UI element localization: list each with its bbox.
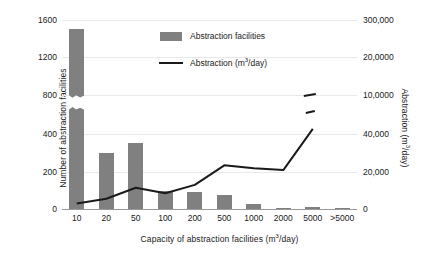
chart-figure: Number of abstraction facilities Abstrac… bbox=[0, 0, 439, 255]
y-axis-right-tick: 20,000 bbox=[363, 168, 389, 177]
y-axis-left-tick: 200 bbox=[25, 168, 57, 177]
y-axis-right-title-sup: 3 bbox=[405, 144, 411, 147]
legend-label-bars: Abstraction facilities bbox=[190, 31, 265, 41]
legend-line-swatch bbox=[159, 62, 183, 64]
line-path bbox=[304, 94, 316, 96]
x-axis-title-suffix: /day) bbox=[279, 234, 298, 244]
y-axis-left-tick: 400 bbox=[25, 130, 57, 139]
y-axis-left-tick: 800 bbox=[25, 91, 57, 100]
y-axis-right-tick: 40,000 bbox=[363, 130, 389, 139]
line-path bbox=[306, 111, 315, 113]
x-axis-title-text: Capacity of abstraction facilities (m bbox=[141, 234, 276, 244]
y-axis-right-tick: 20,0000 bbox=[363, 53, 394, 62]
y-axis-right-tick: 0 bbox=[363, 205, 368, 214]
plot-area bbox=[62, 14, 357, 210]
y-axis-right-title: Abstraction (m3/day) bbox=[400, 88, 411, 167]
y-axis-right-tick: 300,000 bbox=[363, 16, 394, 25]
x-axis-title: Capacity of abstraction facilities (m3/d… bbox=[0, 233, 439, 244]
legend-bar-swatch bbox=[160, 32, 182, 41]
legend-label-line-suffix: /day) bbox=[248, 58, 267, 68]
y-axis-right-tick: 10,0000 bbox=[363, 91, 394, 100]
x-axis-baseline bbox=[62, 209, 357, 210]
y-axis-right-title-text: Abstraction (m bbox=[400, 88, 410, 144]
legend-label-line: Abstraction (m3/day) bbox=[190, 57, 267, 68]
legend-label-line-text: Abstraction (m bbox=[190, 58, 245, 68]
y-axis-left-tick: 1200 bbox=[25, 53, 57, 62]
x-axis-label: >5000 bbox=[322, 213, 362, 223]
y-axis-left-tick: 0 bbox=[25, 205, 57, 214]
line-path bbox=[77, 129, 313, 204]
y-axis-right-title-suffix: /day) bbox=[400, 148, 410, 167]
y-axis-left-tick: 1600 bbox=[25, 16, 57, 25]
line-series bbox=[62, 14, 357, 210]
